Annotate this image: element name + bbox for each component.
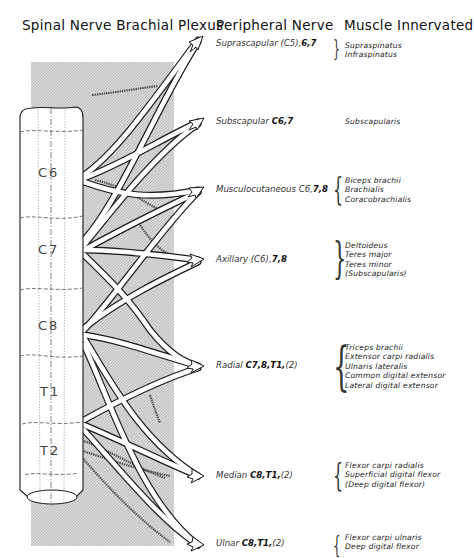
segment-label-t2: T2	[40, 443, 60, 458]
nerve-ulnar: Ulnar C8,T1,(2)	[216, 538, 285, 548]
segment-label-c7: C7	[38, 242, 59, 257]
muscles-median: Flexor carpi radialis Superficial digita…	[345, 461, 440, 489]
segment-label-c6: C6	[38, 165, 59, 180]
muscles-ulnar: Flexor carpi ulnaris Deep digital flexor	[345, 533, 422, 552]
brace-icon: {	[333, 456, 343, 494]
nerve-subscapular: Subscapular C6,7	[216, 116, 293, 126]
muscles-subscapular: Subscapularis	[345, 117, 400, 126]
muscles-suprascapular: Supraspinatus Infraspinatus	[345, 41, 402, 60]
brace-icon: {	[333, 170, 343, 208]
brace-icon: }	[333, 36, 340, 61]
nerve-musculocutaneous: Musculocutaneous C6,7,8	[216, 184, 328, 194]
nerve-radial: Radial C7,8,T1,(2)	[216, 360, 298, 370]
nerve-median: Median C8,T1,(2)	[216, 470, 293, 480]
brace-icon: {	[333, 531, 341, 558]
segment-label-c8: C8	[38, 318, 59, 333]
muscles-musculocutaneous: Biceps brachii Brachialis Coracobrachial…	[345, 176, 411, 204]
segment-label-t1: T1	[40, 384, 60, 399]
nerve-axillary: Axillary (C6),7,8	[216, 254, 287, 264]
muscles-axillary: Deltoideus Teres major Teres minor (Subs…	[345, 241, 407, 279]
nerve-suprascapular: Suprascapular (C5),6,7	[216, 38, 317, 48]
muscles-radial: Triceps brachii Extensor carpi radialis …	[345, 343, 446, 390]
